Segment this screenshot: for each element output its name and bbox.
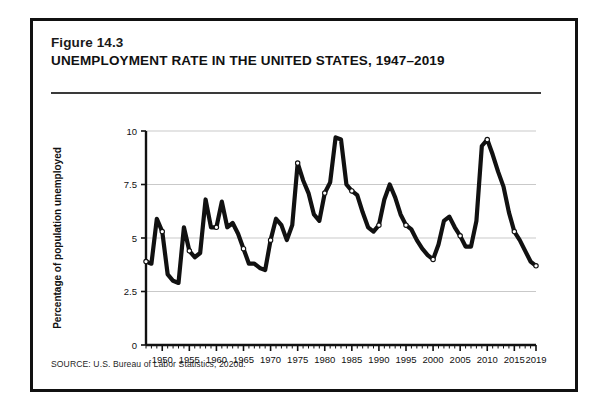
data-point-marker [323, 191, 327, 195]
x-tick-label: 2010 [477, 354, 498, 363]
x-tick-label: 1980 [314, 354, 335, 363]
title-divider [51, 92, 541, 94]
data-point-marker [404, 223, 408, 227]
y-tick-label: 2.5 [124, 286, 137, 297]
data-point-marker [350, 189, 354, 193]
x-tick-label: 1990 [368, 354, 389, 363]
data-point-marker [241, 247, 245, 251]
data-point-marker [485, 137, 489, 141]
y-tick-label: 0 [132, 340, 137, 351]
chart-plot: 02.557.510 19501955196019651970197519801… [33, 101, 581, 363]
y-axis-title: Percentage of population unemployed [52, 147, 63, 329]
y-tick-label: 7.5 [124, 179, 137, 190]
data-point-marker [214, 225, 218, 229]
figure-header: Figure 14.3 UNEMPLOYMENT RATE IN THE UNI… [51, 34, 551, 70]
x-tick-label: 1985 [341, 354, 362, 363]
x-tick-label: 2019 [525, 354, 546, 363]
data-point-marker [160, 229, 164, 233]
y-tick-label: 10 [126, 126, 137, 137]
x-tick-label: 1975 [287, 354, 308, 363]
y-tick-label: 5 [132, 233, 137, 244]
data-point-marker [458, 234, 462, 238]
unemployment-line-chart: 02.557.510 19501955196019651970197519801… [33, 101, 581, 363]
data-point-marker [144, 259, 148, 263]
data-point-marker [512, 229, 516, 233]
data-point-marker [295, 161, 299, 165]
data-point-marker [377, 223, 381, 227]
x-tick-label: 2005 [450, 354, 471, 363]
y-axis-tick-labels: 02.557.510 [124, 126, 137, 351]
x-tick-label: 2000 [423, 354, 444, 363]
x-tick-label: 2015 [504, 354, 525, 363]
data-point-marker [187, 249, 191, 253]
data-point-marker [268, 238, 272, 242]
x-tick-label: 1995 [395, 354, 416, 363]
source-note: SOURCE: U.S. Bureau of Labor Statistics,… [51, 359, 246, 369]
x-tick-label: 1970 [260, 354, 281, 363]
data-point-marker [534, 264, 538, 268]
unemployment-data-line [146, 137, 536, 283]
figure-number: Figure 14.3 [51, 34, 551, 51]
figure-frame: Figure 14.3 UNEMPLOYMENT RATE IN THE UNI… [30, 18, 578, 392]
figure-title: UNEMPLOYMENT RATE IN THE UNITED STATES, … [51, 52, 551, 70]
data-point-marker [431, 257, 435, 261]
